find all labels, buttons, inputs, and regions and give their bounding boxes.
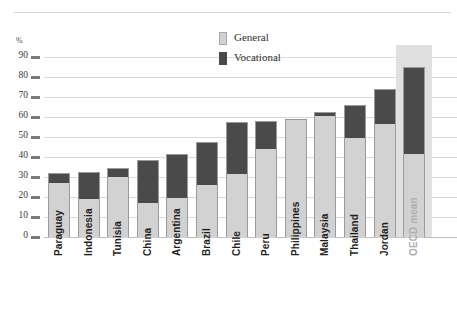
bar-segment-vocational bbox=[256, 122, 276, 149]
gridline-80 bbox=[44, 77, 457, 78]
plot-area: 0102030405060708090 % ParaguayIndonesiaT… bbox=[0, 0, 457, 315]
y-tick-dash-80 bbox=[31, 76, 40, 79]
bar-segment-vocational bbox=[108, 169, 128, 177]
x-axis-label-peru: Peru bbox=[260, 233, 271, 256]
y-tick-label-20: 20 bbox=[0, 191, 28, 201]
y-tick-label-0: 0 bbox=[0, 231, 28, 241]
bar-peru bbox=[255, 121, 277, 237]
y-tick-label-40: 40 bbox=[0, 151, 28, 161]
bar-segment-general bbox=[227, 174, 247, 238]
y-tick-dash-0 bbox=[31, 236, 40, 239]
x-axis-label-china: China bbox=[142, 228, 153, 256]
bar-jordan bbox=[374, 89, 396, 237]
y-tick-label-70: 70 bbox=[0, 91, 28, 101]
bar-segment-vocational bbox=[404, 68, 424, 154]
bar-segment-vocational bbox=[197, 143, 217, 185]
bar-brazil bbox=[196, 142, 218, 237]
bar-segment-general bbox=[375, 124, 395, 238]
y-tick-dash-50 bbox=[31, 136, 40, 139]
legend-swatch-general-icon bbox=[219, 32, 227, 45]
bar-segment-vocational bbox=[49, 174, 69, 183]
chart-container: 0102030405060708090 % ParaguayIndonesiaT… bbox=[0, 0, 457, 315]
y-tick-label-80: 80 bbox=[0, 71, 28, 81]
x-axis-label-paraguay: Paraguay bbox=[53, 210, 64, 256]
x-axis-label-chile: Chile bbox=[231, 231, 242, 256]
y-tick-dash-60 bbox=[31, 116, 40, 119]
bar-segment-vocational bbox=[138, 161, 158, 203]
bar-chile bbox=[226, 122, 248, 237]
gridline-0 bbox=[44, 237, 457, 238]
bar-segment-vocational bbox=[79, 173, 99, 199]
y-axis-unit-label: % bbox=[16, 36, 23, 45]
y-tick-dash-40 bbox=[31, 156, 40, 159]
y-tick-label-50: 50 bbox=[0, 131, 28, 141]
x-axis-label-indonesia: Indonesia bbox=[83, 208, 94, 256]
y-tick-dash-70 bbox=[31, 96, 40, 99]
x-axis-label-philippines: Philippines bbox=[290, 202, 301, 256]
legend-label-vocational: Vocational bbox=[234, 51, 281, 63]
x-axis-label-thailand: Thailand bbox=[349, 214, 360, 256]
y-tick-label-30: 30 bbox=[0, 171, 28, 181]
y-tick-dash-30 bbox=[31, 176, 40, 179]
bar-segment-general bbox=[256, 149, 276, 238]
legend-label-general: General bbox=[234, 31, 269, 43]
bar-segment-vocational bbox=[375, 90, 395, 124]
y-tick-label-60: 60 bbox=[0, 111, 28, 121]
y-tick-label-10: 10 bbox=[0, 211, 28, 221]
x-axis-label-malaysia: Malaysia bbox=[319, 214, 330, 257]
y-tick-dash-10 bbox=[31, 216, 40, 219]
x-axis-label-jordan: Jordan bbox=[379, 222, 390, 256]
bar-segment-vocational bbox=[227, 123, 247, 174]
x-axis-label-oecd-mean: OECD mean bbox=[408, 197, 419, 256]
x-axis-label-tunisia: Tunisia bbox=[112, 221, 123, 256]
bar-segment-vocational bbox=[345, 106, 365, 138]
bar-china bbox=[137, 160, 159, 237]
x-axis-label-brazil: Brazil bbox=[201, 228, 212, 256]
legend-swatch-vocational-icon bbox=[219, 52, 227, 65]
y-tick-label-90: 90 bbox=[0, 51, 28, 61]
x-axis-label-argentina: Argentina bbox=[171, 208, 182, 256]
y-tick-dash-20 bbox=[31, 196, 40, 199]
y-tick-dash-90 bbox=[31, 56, 40, 59]
bar-segment-vocational bbox=[167, 155, 187, 198]
